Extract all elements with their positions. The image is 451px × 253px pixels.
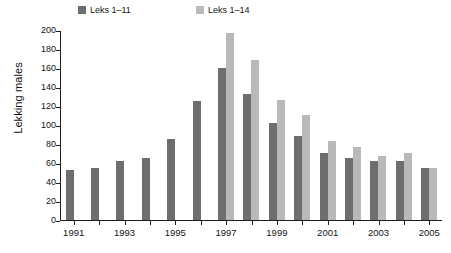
- bar-2000-series-2: [302, 115, 310, 220]
- bar-2001-series-2: [328, 141, 336, 220]
- x-tick-mark: [150, 221, 151, 225]
- bar-group: [340, 31, 365, 220]
- x-tick-label: 1999: [266, 228, 287, 238]
- y-tick-label: 40: [22, 178, 56, 187]
- bar-group: [315, 31, 340, 220]
- y-tick-label: 60: [22, 159, 56, 168]
- x-tick-mark: [353, 221, 354, 225]
- x-tick-label: 1993: [114, 228, 135, 238]
- y-tick-mark: [56, 31, 60, 32]
- bar-group: [366, 31, 391, 220]
- x-tick-mark: [226, 221, 227, 225]
- x-tick-label: 1995: [165, 228, 186, 238]
- bar-group: [188, 31, 213, 220]
- y-tick-label: 140: [22, 83, 56, 92]
- y-tick-mark: [56, 164, 60, 165]
- chart-legend: Leks 1–11 Leks 1–14: [0, 2, 451, 20]
- x-tick-label: 1997: [216, 228, 237, 238]
- bar-1997-series-1: [218, 68, 226, 220]
- x-tick-mark: [404, 221, 405, 225]
- x-tick-mark: [379, 221, 380, 225]
- x-tick-label: 1991: [63, 228, 84, 238]
- x-tick-mark: [429, 221, 430, 225]
- x-tick-mark: [201, 221, 202, 225]
- bar-1997-series-2: [226, 33, 234, 220]
- bar-2005-series-2: [429, 168, 437, 220]
- bar-1999-series-1: [269, 123, 277, 220]
- bar-1999-series-2: [277, 100, 285, 220]
- bar-2000-series-1: [294, 136, 302, 220]
- y-tick-mark: [56, 221, 60, 222]
- bar-2003-series-1: [370, 161, 378, 220]
- bar-group: [86, 31, 111, 220]
- bar-group: [61, 31, 86, 220]
- legend-item-leks-1-14: Leks 1–14: [196, 5, 250, 15]
- legend-item-leks-1-11: Leks 1–11: [78, 5, 131, 15]
- y-tick-label: 80: [22, 140, 56, 149]
- y-tick-mark: [56, 145, 60, 146]
- y-tick-label: 200: [22, 26, 56, 35]
- y-tick-label: 100: [22, 121, 56, 130]
- bar-2001-series-1: [320, 153, 328, 220]
- y-tick-mark: [56, 202, 60, 203]
- x-tick-mark: [99, 221, 100, 225]
- bar-2002-series-1: [345, 158, 353, 220]
- y-tick-label: 20: [22, 197, 56, 206]
- bar-group: [391, 31, 416, 220]
- bar-2003-series-2: [378, 156, 386, 220]
- x-tick-label: 2003: [368, 228, 389, 238]
- y-tick-label: 180: [22, 45, 56, 54]
- bar-group: [264, 31, 289, 220]
- x-axis-ticks: 19911993199519971999200120032005: [61, 221, 442, 243]
- bar-group: [290, 31, 315, 220]
- bar-1995-series-1: [167, 139, 175, 220]
- x-tick-mark: [175, 221, 176, 225]
- bar-group: [137, 31, 162, 220]
- bar-1992-series-1: [91, 168, 99, 220]
- y-tick-label: 120: [22, 102, 56, 111]
- y-tick-label: 0: [22, 216, 56, 225]
- bar-group: [213, 31, 238, 220]
- x-tick-label: 2005: [419, 228, 440, 238]
- bar-1998-series-1: [243, 94, 251, 220]
- y-tick-mark: [56, 50, 60, 51]
- bar-2005-series-1: [421, 168, 429, 220]
- bar-1996-series-1: [193, 101, 201, 220]
- x-tick-mark: [74, 221, 75, 225]
- y-tick-mark: [56, 88, 60, 89]
- bar-1998-series-2: [251, 60, 259, 220]
- chart-figure: Leks 1–11 Leks 1–14 Lekking males 200180…: [0, 0, 451, 253]
- y-tick-mark: [56, 107, 60, 108]
- x-tick-mark: [277, 221, 278, 225]
- bar-group: [239, 31, 264, 220]
- y-tick-label: 160: [22, 64, 56, 73]
- x-tick-mark: [125, 221, 126, 225]
- legend-swatch-dark: [78, 6, 86, 14]
- bar-group: [416, 31, 441, 220]
- y-tick-mark: [56, 69, 60, 70]
- bar-2004-series-1: [396, 161, 404, 220]
- plot-area: 200180160140120100806040200 199119931995…: [60, 31, 442, 221]
- bar-group: [112, 31, 137, 220]
- bar-series-container: [61, 31, 442, 220]
- x-tick-mark: [328, 221, 329, 225]
- x-tick-label: 2001: [317, 228, 338, 238]
- x-tick-mark: [252, 221, 253, 225]
- legend-label-leks-1-11: Leks 1–11: [90, 5, 131, 15]
- bar-1991-series-1: [66, 170, 74, 220]
- legend-label-leks-1-14: Leks 1–14: [208, 5, 250, 15]
- y-tick-mark: [56, 183, 60, 184]
- legend-swatch-light: [196, 6, 204, 14]
- bar-1994-series-1: [142, 158, 150, 220]
- bar-group: [163, 31, 188, 220]
- y-tick-mark: [56, 126, 60, 127]
- bar-1993-series-1: [116, 161, 124, 220]
- x-tick-mark: [302, 221, 303, 225]
- bar-2004-series-2: [404, 153, 412, 220]
- bar-2002-series-2: [353, 147, 361, 220]
